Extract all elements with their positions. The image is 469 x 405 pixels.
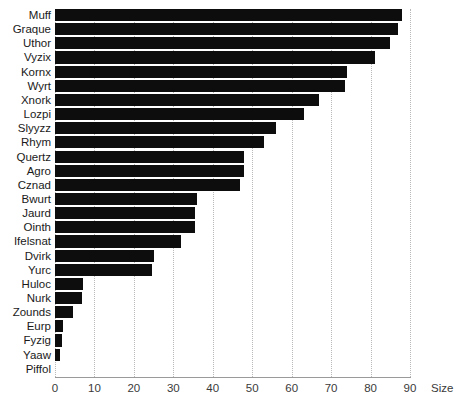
bar-row: Kornx (55, 66, 410, 78)
bar (55, 37, 390, 49)
bar (55, 23, 398, 35)
bar-row: Yaaw (55, 349, 410, 361)
bar-row: Uthor (55, 37, 410, 49)
bar-row: Jaurd (55, 207, 410, 219)
bar-row: Muff (55, 9, 410, 21)
bar (55, 136, 264, 148)
bar-row: Yurc (55, 264, 410, 276)
category-label: Yurc (3, 264, 51, 276)
bar (55, 108, 304, 120)
bar (55, 264, 152, 276)
category-label: Quertz (3, 151, 51, 163)
bar-row: Eurp (55, 320, 410, 332)
bar-row: Bwurt (55, 193, 410, 205)
category-label: Wyrt (3, 80, 51, 92)
category-label: Vyzix (3, 51, 51, 63)
bar (55, 292, 82, 304)
x-tick-label: 20 (127, 381, 140, 395)
category-label: Rhym (3, 136, 51, 148)
bar-row: Graque (55, 23, 410, 35)
category-label: Fyzig (3, 334, 51, 346)
bar (55, 306, 73, 318)
x-tick-label: 40 (206, 381, 219, 395)
bar (55, 221, 195, 233)
x-tick-label: 0 (52, 381, 58, 395)
x-axis-line (55, 377, 411, 378)
x-axis-title: Size (431, 381, 453, 395)
bar-row: Ifelsnat (55, 235, 410, 247)
category-label: Yaaw (3, 349, 51, 361)
category-label: Xnork (3, 94, 51, 106)
bar (55, 349, 60, 361)
category-label: Jaurd (3, 207, 51, 219)
category-label: Uthor (3, 37, 51, 49)
bar (55, 151, 244, 163)
category-label: Huloc (3, 278, 51, 290)
category-label: Kornx (3, 66, 51, 78)
bar-row: Dvirk (55, 250, 410, 262)
category-label: Nurk (3, 292, 51, 304)
category-label: Cznad (3, 179, 51, 191)
bar-row: Agro (55, 165, 410, 177)
bar-row: Quertz (55, 151, 410, 163)
bar-row: Vyzix (55, 51, 410, 63)
bar (55, 193, 197, 205)
category-label: Zounds (3, 306, 51, 318)
category-label: Graque (3, 23, 51, 35)
bar (55, 80, 345, 92)
bar (55, 122, 276, 134)
bar-row: Zounds (55, 306, 410, 318)
bar-row: Lozpi (55, 108, 410, 120)
x-tick-label: 30 (167, 381, 180, 395)
bar-row: Wyrt (55, 80, 410, 92)
bar-row: Rhym (55, 136, 410, 148)
category-label: Ointh (3, 221, 51, 233)
bar (55, 207, 195, 219)
bar-chart: MuffGraqueUthorVyzixKornxWyrtXnorkLozpiS… (0, 0, 469, 405)
category-label: Bwurt (3, 193, 51, 205)
bar (55, 250, 154, 262)
bar-row: Cznad (55, 179, 410, 191)
x-tick-label: 90 (404, 381, 417, 395)
bar-row: Slyyzz (55, 122, 410, 134)
bar-row: Xnork (55, 94, 410, 106)
category-label: Slyyzz (3, 122, 51, 134)
bar (55, 334, 62, 346)
category-label: Muff (3, 9, 51, 21)
bar-row: Huloc (55, 278, 410, 290)
bar (55, 94, 319, 106)
bar (55, 165, 244, 177)
category-label: Eurp (3, 320, 51, 332)
category-label: Agro (3, 165, 51, 177)
bar-row: Nurk (55, 292, 410, 304)
x-tick-label: 10 (88, 381, 101, 395)
category-label: Lozpi (3, 108, 51, 120)
bar-row: Ointh (55, 221, 410, 233)
bar (55, 320, 63, 332)
category-label: Dvirk (3, 250, 51, 262)
bar (55, 235, 181, 247)
gridline-90 (410, 9, 412, 377)
bar (55, 9, 402, 21)
bar-row: Piffol (55, 363, 410, 375)
category-label: Piffol (3, 363, 51, 375)
bar (55, 179, 240, 191)
bar (55, 51, 375, 63)
bar-row: Fyzig (55, 334, 410, 346)
x-tick-label: 50 (246, 381, 259, 395)
x-tick-label: 80 (364, 381, 377, 395)
plot-area: MuffGraqueUthorVyzixKornxWyrtXnorkLozpiS… (55, 9, 410, 377)
bar (55, 278, 83, 290)
x-tick-label: 70 (325, 381, 338, 395)
category-label: Ifelsnat (3, 235, 51, 247)
x-tick-label: 60 (285, 381, 298, 395)
bar (55, 66, 347, 78)
